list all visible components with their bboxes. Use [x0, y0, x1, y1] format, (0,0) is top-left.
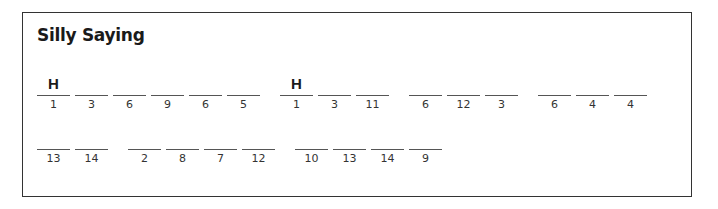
- blank-underline: [189, 95, 222, 96]
- letter-blank[interactable]: H1: [37, 72, 70, 111]
- letter-blank[interactable]: 13: [37, 126, 70, 165]
- code-number: 12: [457, 98, 471, 111]
- code-number: 4: [589, 98, 596, 111]
- blank-underline: [409, 149, 442, 150]
- code-number: 7: [217, 152, 224, 165]
- blank-underline: [295, 149, 328, 150]
- code-number: 11: [366, 98, 380, 111]
- letter-blank[interactable]: 10: [295, 126, 328, 165]
- answer-word: H136965: [37, 72, 265, 111]
- puzzle-title: Silly Saying: [37, 25, 145, 45]
- letter-blank[interactable]: 4: [614, 72, 647, 111]
- code-number: 1: [50, 98, 57, 111]
- code-number: 2: [141, 152, 148, 165]
- code-number: 10: [305, 152, 319, 165]
- blank-underline: [409, 95, 442, 96]
- letter-blank[interactable]: 13: [333, 126, 366, 165]
- blank-underline: [614, 95, 647, 96]
- blank-underline: [318, 95, 351, 96]
- code-number: 3: [331, 98, 338, 111]
- blank-underline: [113, 95, 146, 96]
- blank-underline: [447, 95, 480, 96]
- letter-blank[interactable]: 12: [447, 72, 480, 111]
- code-number: 14: [381, 152, 395, 165]
- answer-word: 1314: [37, 126, 113, 165]
- code-number: 6: [202, 98, 209, 111]
- answer-word: 28712: [128, 126, 280, 165]
- code-number: 13: [47, 152, 61, 165]
- blank-underline: [576, 95, 609, 96]
- blank-underline: [280, 95, 313, 96]
- answer-word: H1311: [280, 72, 394, 111]
- code-number: 5: [240, 98, 247, 111]
- answer-row-2: 1314287121013149: [37, 126, 462, 165]
- blank-underline: [227, 95, 260, 96]
- blank-underline: [242, 149, 275, 150]
- letter-blank[interactable]: 6: [113, 72, 146, 111]
- answer-word: 1013149: [295, 126, 447, 165]
- code-number: 6: [126, 98, 133, 111]
- letter-blank[interactable]: 2: [128, 126, 161, 165]
- code-number: 6: [551, 98, 558, 111]
- code-number: 4: [627, 98, 634, 111]
- blank-underline: [538, 95, 571, 96]
- blank-underline: [75, 95, 108, 96]
- answer-row-1: H136965H13116123644: [37, 72, 667, 111]
- code-number: 6: [422, 98, 429, 111]
- code-number: 9: [422, 152, 429, 165]
- code-number: 1: [293, 98, 300, 111]
- letter-blank[interactable]: 11: [356, 72, 389, 111]
- letter-blank[interactable]: 9: [151, 72, 184, 111]
- letter-blank[interactable]: 4: [576, 72, 609, 111]
- code-number: 14: [85, 152, 99, 165]
- letter-blank[interactable]: 3: [485, 72, 518, 111]
- letter-blank[interactable]: 3: [75, 72, 108, 111]
- code-number: 8: [179, 152, 186, 165]
- letter-blank[interactable]: 3: [318, 72, 351, 111]
- blank-underline: [75, 149, 108, 150]
- blank-underline: [128, 149, 161, 150]
- letter-blank[interactable]: 9: [409, 126, 442, 165]
- letter-blank[interactable]: 12: [242, 126, 275, 165]
- letter-blank[interactable]: 14: [371, 126, 404, 165]
- blank-underline: [37, 95, 70, 96]
- blank-underline: [356, 95, 389, 96]
- letter-blank[interactable]: 8: [166, 126, 199, 165]
- letter-blank[interactable]: 6: [409, 72, 442, 111]
- letter-blank[interactable]: 6: [189, 72, 222, 111]
- answer-word: 644: [538, 72, 652, 111]
- blank-underline: [37, 149, 70, 150]
- code-number: 3: [498, 98, 505, 111]
- blank-underline: [485, 95, 518, 96]
- letter-blank[interactable]: H1: [280, 72, 313, 111]
- code-number: 3: [88, 98, 95, 111]
- filled-letter: H: [291, 72, 302, 95]
- code-number: 9: [164, 98, 171, 111]
- blank-underline: [151, 95, 184, 96]
- blank-underline: [166, 149, 199, 150]
- blank-underline: [204, 149, 237, 150]
- letter-blank[interactable]: 5: [227, 72, 260, 111]
- filled-letter: H: [48, 72, 59, 95]
- letter-blank[interactable]: 7: [204, 126, 237, 165]
- answer-word: 6123: [409, 72, 523, 111]
- blank-underline: [371, 149, 404, 150]
- letter-blank[interactable]: 6: [538, 72, 571, 111]
- code-number: 12: [252, 152, 266, 165]
- letter-blank[interactable]: 14: [75, 126, 108, 165]
- code-number: 13: [343, 152, 357, 165]
- blank-underline: [333, 149, 366, 150]
